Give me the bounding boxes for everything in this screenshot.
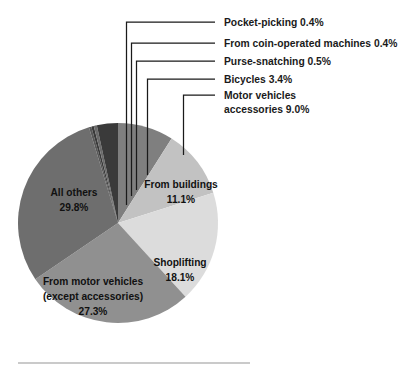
leader-line-motor-vehicles-accessories: [184, 95, 216, 155]
callout-label-pocket-picking: Pocket-picking 0.4%: [224, 17, 324, 28]
slice-label-from-motor-vehicles-line1: From motor vehicles: [43, 276, 144, 287]
slice-label-all-others-value: 29.8%: [60, 202, 89, 213]
callout-label-bicycles: Bicycles 3.4%: [224, 74, 292, 85]
slice-label-from-buildings-name-line1: From buildings: [144, 179, 218, 190]
callout-labels: Pocket-picking 0.4% From coin-operated m…: [224, 17, 397, 115]
chart-canvas: Pocket-picking 0.4% From coin-operated m…: [0, 0, 415, 369]
slice-label-from-motor-vehicles-value: 27.3%: [79, 306, 108, 317]
callout-label-motor-vehicles-accessories-line1: Motor vehicles: [224, 90, 296, 101]
slice-label-from-motor-vehicles-line2: (except accessories): [43, 291, 143, 302]
slice-label-shoplifting-value: 18.1%: [166, 272, 195, 283]
slice-label-all-others-name: All others: [51, 187, 98, 198]
slice-label-from-buildings-value: 11.1%: [167, 194, 195, 205]
slice-label-shoplifting-name: Shoplifting: [153, 257, 206, 268]
callout-label-motor-vehicles-accessories-line2: accessories 9.0%: [224, 104, 309, 115]
callout-label-from-coin-operated-machines: From coin-operated machines 0.4%: [224, 38, 397, 49]
pie-chart-figure: Pocket-picking 0.4% From coin-operated m…: [0, 0, 415, 369]
callout-label-purse-snatching: Purse-snatching 0.5%: [224, 56, 331, 67]
